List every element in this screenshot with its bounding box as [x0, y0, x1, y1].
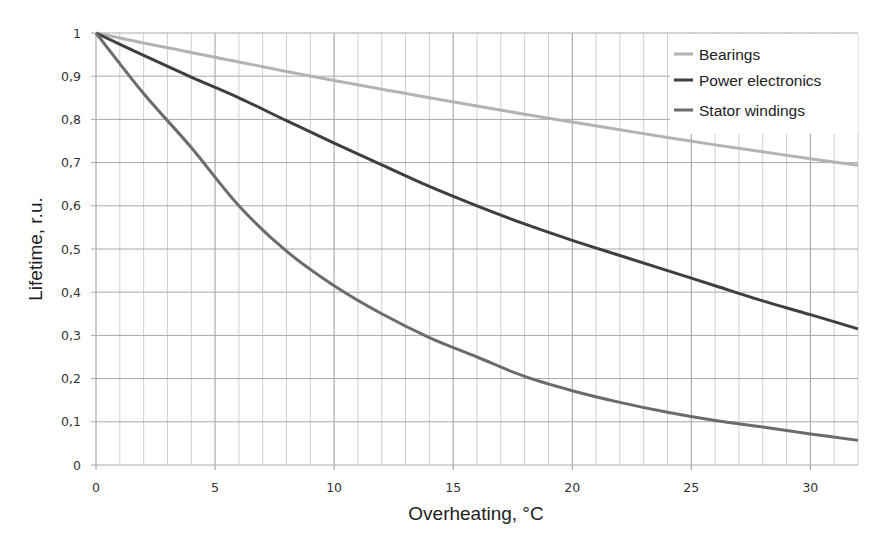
- y-tick-label: 0,9: [61, 69, 81, 84]
- y-tick-label: 0,7: [61, 155, 81, 170]
- legend-label-stator-windings: Stator windings: [699, 102, 805, 119]
- line-chart: 00,10,20,30,40,50,60,70,80,91 0510152025…: [0, 0, 887, 543]
- y-tick-label: 0,3: [61, 328, 81, 343]
- legend: Bearings Power electronics Stator windin…: [670, 34, 858, 134]
- x-tick-label: 10: [326, 480, 342, 495]
- y-tick-label: 0,1: [61, 414, 81, 429]
- x-axis-ticks: 051015202530: [92, 480, 818, 495]
- y-tick-label: 0,5: [61, 242, 81, 257]
- x-tick-label: 0: [92, 480, 100, 495]
- y-tick-label: 0,4: [61, 285, 81, 300]
- x-tick-label: 15: [445, 480, 461, 495]
- y-tick-label: 1: [73, 26, 81, 41]
- x-tick-label: 25: [683, 480, 699, 495]
- legend-label-bearings: Bearings: [699, 46, 760, 63]
- x-tick-label: 30: [802, 480, 818, 495]
- y-tick-label: 0,8: [61, 112, 81, 127]
- x-axis-title: Overheating, °C: [408, 503, 543, 524]
- y-tick-label: 0,2: [61, 371, 81, 386]
- y-tick-label: 0: [73, 458, 81, 473]
- y-tick-label: 0,6: [61, 198, 81, 213]
- legend-label-power-electronics: Power electronics: [699, 72, 822, 89]
- y-axis-title: Lifetime, r.u.: [25, 197, 46, 301]
- x-tick-label: 5: [211, 480, 219, 495]
- x-tick-label: 20: [564, 480, 580, 495]
- y-axis-ticks: 00,10,20,30,40,50,60,70,80,91: [61, 26, 81, 473]
